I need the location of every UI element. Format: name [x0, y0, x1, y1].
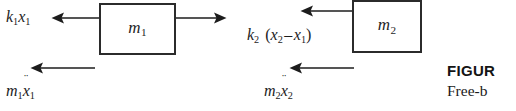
arrow-mass2-inertia — [288, 60, 355, 76]
arrow-mass1-left — [50, 10, 102, 26]
mass-box-1-label: m1 — [128, 18, 147, 38]
force-label-spring-1-text: k1x1 — [6, 8, 30, 25]
force-label-spring-1: k1x1 — [6, 9, 30, 27]
force-label-spring-2: k2 (x2–x1) — [247, 27, 311, 45]
arrow-mass1-right — [176, 10, 228, 26]
force-label-inertia-2: m2¨x2 — [264, 83, 293, 101]
arrow-mass2-left — [299, 3, 353, 19]
figure-caption: FIGUR Free-b — [447, 62, 495, 100]
mass-box-2: m2 — [352, 0, 422, 53]
figure-caption-body: Free-b — [447, 82, 495, 100]
mass-box-1: m1 — [99, 3, 176, 55]
figure-canvas: k1x1 m1 m1¨x1 k2 (x2–x1) m2 — [0, 0, 516, 111]
arrow-mass1-inertia — [29, 60, 96, 76]
mass-box-2-label: m2 — [378, 15, 397, 35]
force-label-inertia-1-text: m1¨x1 — [6, 82, 35, 99]
force-label-spring-2-text: k2 (x2–x1) — [247, 26, 311, 43]
force-label-inertia-2-text: m2¨x2 — [264, 82, 293, 99]
force-label-inertia-1: m1¨x1 — [6, 83, 35, 101]
figure-caption-title: FIGUR — [447, 62, 495, 79]
